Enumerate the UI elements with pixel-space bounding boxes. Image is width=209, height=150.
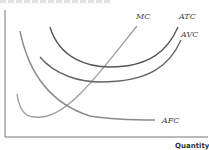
x-axis-label: Quantity — [175, 142, 209, 150]
avc-label: AVC — [180, 30, 198, 39]
mc-label: MC — [135, 12, 150, 21]
atc-label: ATC — [178, 12, 196, 21]
atc-curve — [50, 27, 178, 67]
avc-curve — [40, 40, 181, 82]
cost-curves-chart: MC ATC AVC AFC Quantity — [0, 0, 209, 150]
afc-curve — [20, 31, 155, 120]
afc-label: AFC — [161, 116, 179, 125]
